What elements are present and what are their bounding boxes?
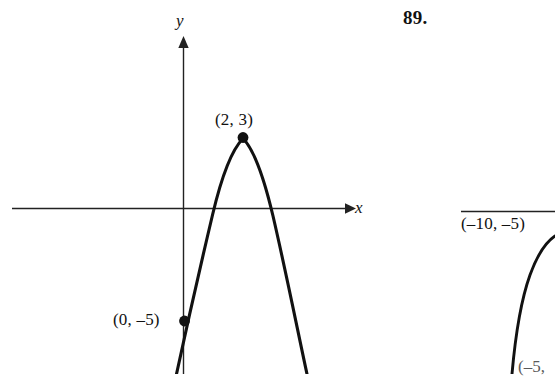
right-figure-curve xyxy=(512,236,555,374)
y-intercept-point-label: (0, –5) xyxy=(113,311,160,328)
right-figure-point-label: (–10, –5) xyxy=(461,215,525,232)
right-figure-clipped-label: (–5, xyxy=(518,358,545,375)
y-axis-arrowhead xyxy=(178,36,188,48)
x-axis-label: x xyxy=(355,199,363,216)
vertex-point-label: (2, 3) xyxy=(215,111,253,128)
parabola-curve-group xyxy=(177,139,308,375)
y-intercept-point-marker xyxy=(179,316,190,327)
vertex-point-marker xyxy=(238,132,249,143)
parabola-curve xyxy=(177,139,308,375)
right-figure-group xyxy=(461,212,555,375)
y-axis-label: y xyxy=(176,12,184,29)
exercise-number-label: 89. xyxy=(403,8,428,27)
